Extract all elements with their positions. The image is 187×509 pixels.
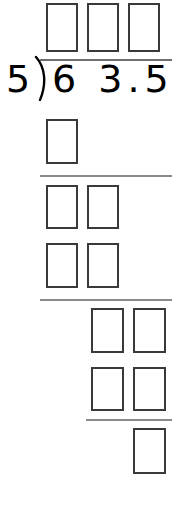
quotient-box-2[interactable] <box>87 3 119 52</box>
step1-product-box-1[interactable] <box>46 119 78 164</box>
step2-remainder-box-1[interactable] <box>91 308 124 353</box>
subtraction-rule-3 <box>86 419 172 421</box>
step3-product-box-1[interactable] <box>91 367 124 411</box>
quotient-box-3[interactable] <box>128 3 160 52</box>
step1-remainder-box-1[interactable] <box>46 185 78 229</box>
subtraction-rule-1 <box>40 175 172 177</box>
dividend-digits: 6 3.5 <box>52 60 174 98</box>
step2-product-box-1[interactable] <box>46 243 78 288</box>
step3-product-box-2[interactable] <box>133 367 166 411</box>
quotient-box-1[interactable] <box>46 3 78 52</box>
step1-remainder-box-2[interactable] <box>87 185 119 229</box>
step2-product-box-2[interactable] <box>87 243 119 288</box>
step2-remainder-box-2[interactable] <box>133 308 166 353</box>
final-remainder-box[interactable] <box>133 428 166 474</box>
subtraction-rule-2 <box>40 299 172 301</box>
divisor-digit: 5 <box>6 60 30 98</box>
long-division-worksheet: 5 6 3.5 <box>0 0 187 509</box>
division-bracket-icon <box>34 55 52 101</box>
